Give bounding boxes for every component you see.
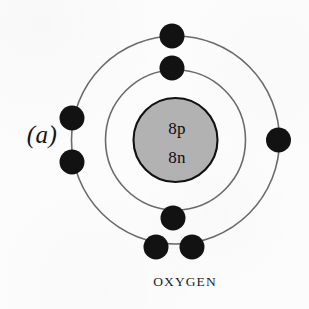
electron-outer-bottom-right — [180, 235, 205, 260]
electron-outer-bottom-left — [144, 235, 169, 260]
electron-outer-left-lower — [60, 150, 85, 175]
electron-outer-right — [266, 128, 291, 153]
panel-label: (a) — [14, 122, 70, 147]
oxygen-atom-figure: 8p 8n (a) OXYGEN — [0, 0, 309, 309]
atom-diagram: 8p 8n — [0, 0, 309, 309]
element-caption: OXYGEN — [130, 275, 240, 289]
electron-outer-top — [160, 24, 185, 49]
electron-inner-top — [160, 56, 185, 81]
electron-inner-bottom — [161, 206, 186, 231]
nucleus — [134, 98, 218, 182]
nucleus-protons-label: 8p — [168, 119, 186, 138]
nucleus-neutrons-label: 8n — [168, 148, 186, 167]
